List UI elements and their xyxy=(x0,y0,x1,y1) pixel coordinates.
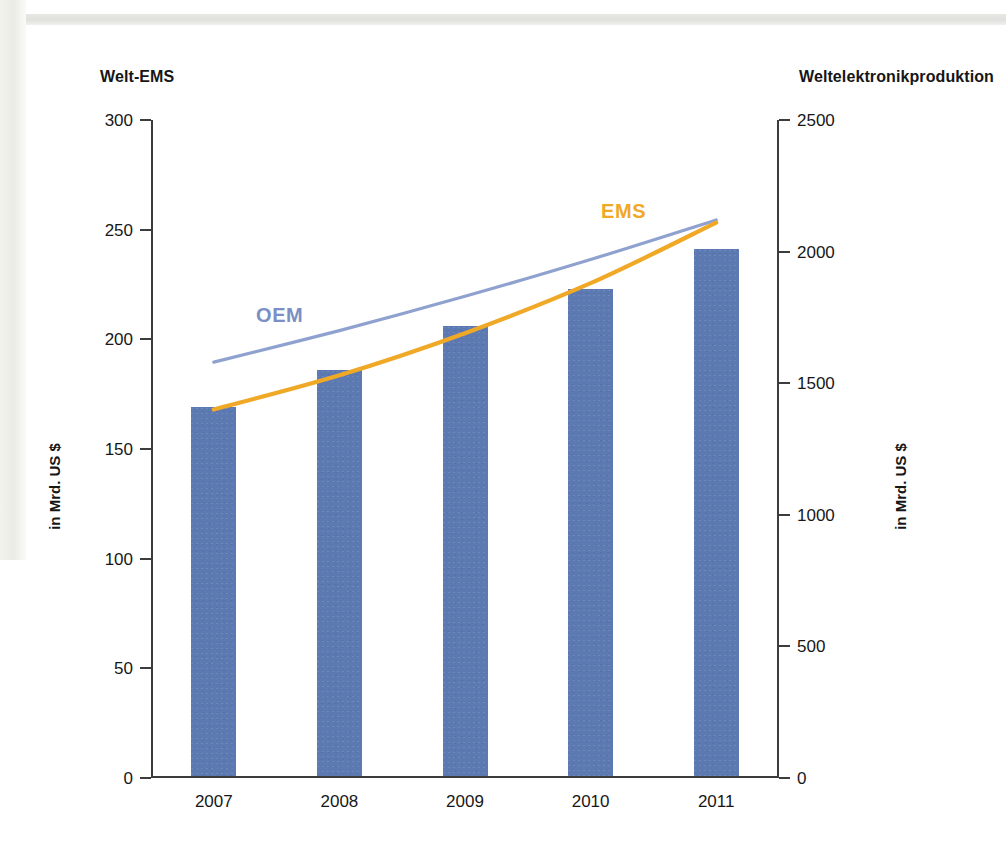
right-axis-tick xyxy=(779,251,790,253)
left-axis-unit-label: in Mrd. US $ xyxy=(46,427,63,547)
oem-series-label: OEM xyxy=(256,304,303,327)
ems-series-label: EMS xyxy=(601,200,646,223)
right-axis-tick-label: 1000 xyxy=(797,506,835,523)
left-axis-tick-label: 250 xyxy=(105,221,133,238)
left-axis-tick-label: 0 xyxy=(124,770,133,787)
left-axis-tick xyxy=(140,777,151,779)
left-axis-tick-label: 200 xyxy=(105,331,133,348)
left-axis-header: Welt-EMS xyxy=(100,68,174,86)
x-axis-tick-label: 2011 xyxy=(671,792,761,812)
right-axis-tick xyxy=(779,777,790,779)
right-axis-tick-label: 0 xyxy=(797,770,806,787)
right-axis-tick xyxy=(779,514,790,516)
page-top-rule xyxy=(26,14,1006,25)
left-axis-tick xyxy=(140,448,151,450)
right-axis-unit-label: in Mrd. US $ xyxy=(892,427,909,547)
line-series-overlay xyxy=(151,120,779,778)
left-axis-tick xyxy=(140,667,151,669)
oem-line-path xyxy=(214,220,716,362)
left-axis-tick-label: 150 xyxy=(105,441,133,458)
right-axis-tick-label: 2000 xyxy=(797,243,835,260)
right-axis-tick xyxy=(779,119,790,121)
x-axis-tick-label: 2010 xyxy=(546,792,636,812)
chart-page: Welt-EMS Weltelektronikproduktion in Mrd… xyxy=(0,0,1006,861)
left-axis-tick xyxy=(140,338,151,340)
right-axis-header: Weltelektronikproduktion xyxy=(799,68,994,86)
left-axis-tick xyxy=(140,229,151,231)
right-axis-tick xyxy=(779,382,790,384)
left-axis-tick xyxy=(140,558,151,560)
x-axis-tick-label: 2008 xyxy=(294,792,384,812)
left-axis-tick-label: 50 xyxy=(114,660,133,677)
left-axis-tick-label: 100 xyxy=(105,550,133,567)
plot-area: 050100150200250300 05001000150020002500 … xyxy=(151,120,779,778)
x-axis-tick-label: 2009 xyxy=(420,792,510,812)
x-axis-tick-label: 2007 xyxy=(169,792,259,812)
left-axis-tick-label: 300 xyxy=(105,112,133,129)
page-margin-strip xyxy=(0,0,26,560)
right-axis-tick-label: 500 xyxy=(797,638,825,655)
left-axis-tick xyxy=(140,119,151,121)
right-axis-tick xyxy=(779,645,790,647)
right-axis-tick-label: 1500 xyxy=(797,375,835,392)
right-axis-tick-label: 2500 xyxy=(797,112,835,129)
